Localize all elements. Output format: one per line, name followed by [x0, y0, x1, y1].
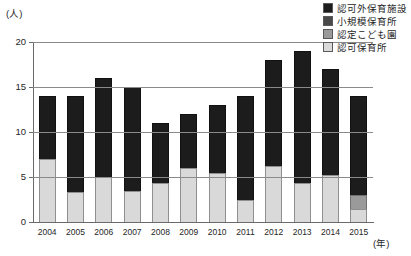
bar-segment[interactable] [95, 177, 112, 222]
x-axis-tick-label: 2006 [88, 227, 120, 237]
bar-stack[interactable] [350, 96, 367, 222]
bar-chart: (人) (年) 認可外保育施設小規模保育所認定こども園認可保育所 0510152… [0, 0, 411, 256]
legend-item[interactable]: 小規模保育所 [323, 15, 407, 27]
bar-stack[interactable] [265, 60, 282, 222]
y-axis-tick-label: 5 [0, 171, 26, 182]
legend-item-label: 小規模保育所 [337, 16, 397, 27]
x-axis-unit-label: (年) [373, 236, 389, 250]
gridline [33, 42, 373, 43]
bar-segment[interactable] [265, 60, 282, 166]
y-axis-tick-label: 0 [0, 216, 26, 227]
x-axis-tick-label: 2013 [286, 227, 318, 237]
bar-stack[interactable] [322, 69, 339, 222]
bar-stack[interactable] [237, 96, 254, 222]
y-axis-tick-mark [29, 222, 33, 223]
x-axis-tick-label: 2009 [173, 227, 205, 237]
bar-segment[interactable] [39, 159, 56, 222]
chart-legend: 認可外保育施設小規模保育所認定こども園認可保育所 [323, 2, 407, 53]
y-axis-tick-mark [29, 87, 33, 88]
x-axis-tick-label: 2008 [145, 227, 177, 237]
bar-segment[interactable] [209, 105, 226, 173]
x-axis-tick-label: 2007 [116, 227, 148, 237]
plot-area [33, 42, 373, 222]
legend-swatch-icon [323, 3, 333, 13]
x-axis-tick-label: 2015 [343, 227, 375, 237]
bar-segment[interactable] [322, 69, 339, 175]
bar-segment[interactable] [237, 96, 254, 200]
bar-segment[interactable] [265, 166, 282, 222]
legend-swatch-icon [323, 29, 333, 39]
bar-segment[interactable] [350, 209, 367, 223]
y-axis-tick-label: 10 [0, 126, 26, 137]
y-axis-tick-mark [29, 42, 33, 43]
legend-item[interactable]: 認可外保育施設 [323, 2, 407, 14]
bar-segment[interactable] [350, 195, 367, 209]
y-axis-tick-mark [29, 177, 33, 178]
x-axis-tick-label: 2010 [201, 227, 233, 237]
legend-item[interactable]: 認定こども園 [323, 28, 407, 40]
bar-stack[interactable] [209, 105, 226, 222]
gridline [33, 87, 373, 88]
bar-segment[interactable] [322, 175, 339, 222]
bar-segment[interactable] [350, 96, 367, 195]
bar-segment[interactable] [152, 183, 169, 222]
legend-item[interactable]: 認可保育所 [323, 41, 407, 53]
gridline [33, 177, 373, 178]
x-axis-tick-label: 2004 [31, 227, 63, 237]
bar-stack[interactable] [180, 114, 197, 222]
bar-segment[interactable] [294, 51, 311, 183]
x-axis-line [33, 222, 374, 223]
legend-swatch-icon [323, 42, 333, 52]
x-axis-tick-label: 2011 [230, 227, 262, 237]
bar-segment[interactable] [124, 87, 141, 191]
bar-stack[interactable] [67, 96, 84, 222]
legend-item-label: 認可外保育施設 [337, 3, 407, 14]
legend-swatch-icon [323, 16, 333, 26]
bar-segment[interactable] [39, 96, 56, 159]
bar-segment[interactable] [124, 191, 141, 222]
bar-segment[interactable] [95, 78, 112, 177]
bar-segment[interactable] [294, 183, 311, 222]
x-axis-tick-label: 2012 [258, 227, 290, 237]
x-axis-tick-label: 2014 [315, 227, 347, 237]
y-axis-tick-mark [29, 132, 33, 133]
y-axis-tick-label: 20 [0, 36, 26, 47]
bar-stack[interactable] [95, 78, 112, 222]
bar-stack[interactable] [124, 87, 141, 222]
y-axis-tick-label: 15 [0, 81, 26, 92]
bar-stack[interactable] [294, 51, 311, 222]
bar-segment[interactable] [180, 114, 197, 168]
bar-stack[interactable] [152, 123, 169, 222]
bar-segment[interactable] [237, 200, 254, 222]
bar-segment[interactable] [209, 173, 226, 223]
bar-segment[interactable] [67, 192, 84, 222]
x-axis-tick-label: 2005 [60, 227, 92, 237]
bar-stack[interactable] [39, 96, 56, 222]
gridline [33, 132, 373, 133]
legend-item-label: 認可保育所 [337, 42, 387, 53]
y-axis-unit-label: (人) [6, 6, 22, 20]
legend-item-label: 認定こども園 [337, 29, 397, 40]
